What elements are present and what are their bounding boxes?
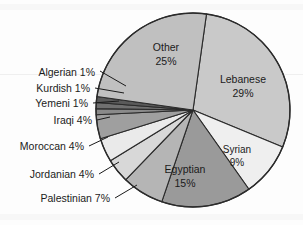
slice-label-other: Other	[153, 41, 180, 53]
slice-label-moroccan: Moroccan 4%	[20, 140, 84, 152]
slice-value-other: 25%	[155, 55, 176, 67]
slice-label-iraqi: Iraqi 4%	[53, 114, 92, 126]
slice-label-jordanian: Jordanian 4%	[30, 168, 94, 180]
pie-chart-figure: Other 25% Lebanese 29% Syrian 9% Egyptia…	[0, 0, 303, 225]
slice-value-egyptian: 15%	[174, 177, 195, 189]
slice-label-egyptian: Egyptian	[165, 163, 206, 175]
slice-label-lebanese: Lebanese	[220, 73, 266, 85]
slice-label-kurdish: Kurdish 1%	[36, 82, 90, 94]
pie-chart-svg: Other 25% Lebanese 29% Syrian 9% Egyptia…	[0, 0, 303, 225]
slice-label-palestinian: Palestinian 7%	[41, 192, 110, 204]
slice-label-syrian: Syrian	[223, 144, 251, 155]
slice-label-yemeni: Yemeni 1%	[35, 97, 88, 109]
slice-label-algerian: Algerian 1%	[38, 66, 95, 78]
slice-value-syrian: 9%	[230, 157, 245, 168]
pie-slice-other	[97, 13, 207, 110]
leader-line-palestinian	[115, 185, 137, 198]
slice-value-lebanese: 29%	[232, 87, 253, 99]
